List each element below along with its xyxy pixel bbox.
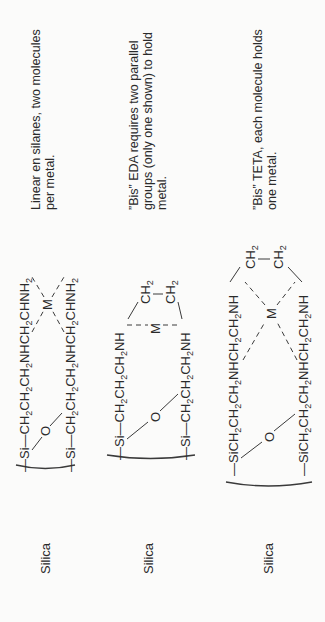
coordination-bond [32,277,44,297]
metal-atom: M [148,323,163,334]
bond-line [128,302,138,319]
row-bis-eda: Silica —Si—CH2CH2CH2NH —Si—CH2CH2CH2NH O… [107,32,195,574]
caption-line: metal. [155,176,169,210]
silica-label: Silica [261,542,276,574]
row-bis-teta: Silica —SiCH2CH2CH2NHCH2CH2NH —SiCH2CH2C… [226,29,313,574]
silane-chain-bottom: —Si—CH2CH2CH2NH [178,332,195,460]
silane-chain-top: —SiCH2CH2CH2NHCH2CH2NH [226,295,243,476]
coordination-bond [277,322,297,360]
metal-atom: M [40,299,55,310]
silane-chain-bottom: —Si—CH2CH2CH2NHCH2CHNH2 [63,278,80,472]
methylene-group: CH2 [271,245,288,269]
caption-line: per metal. [43,154,57,210]
silane-chain-top: —Si—CH2CH2CH2NH [112,332,129,460]
metal-atom: M [264,308,279,319]
methylene-group: CH2 [163,280,180,304]
coordination-bond [277,282,295,305]
bond-line [178,302,182,319]
oxygen-atom: O [262,432,277,442]
oxygen-atom: O [38,426,53,436]
bond-line [241,442,262,458]
silica-surface-arc [226,482,312,486]
silane-chain-bottom: —SiCH2CH2CH2NHCH2CH2NH [296,295,313,476]
caption-line: ”Bis” TETA, each molecule holds [251,29,265,210]
silica-label: Silica [141,542,156,574]
methylene-group: CH2 [138,280,155,304]
oxygen-atom: O [148,412,163,422]
bond-line [230,267,240,282]
bond-line [288,267,302,282]
methylene-group: CH2 [243,245,260,269]
coordination-bond [243,322,265,360]
bond-line [50,413,62,426]
coordination-bond [245,282,265,305]
row-linear-en: Silica —Si—CH2CH2CH2NHCH2CHNH2 —Si—CH2CH… [16,29,80,574]
caption-line: ”Bis” EDA requires two parallel [127,40,141,210]
silane-chain-top: —Si—CH2CH2CH2NHCH2CHNH2 [17,278,34,472]
diagram-canvas: Silica —Si—CH2CH2CH2NHCH2CHNH2 —Si—CH2CH… [0,0,325,622]
caption-line: one metal. [265,152,279,210]
bond-line [160,394,178,411]
silica-label: Silica [38,542,53,574]
bond-line [274,414,295,431]
caption-line: Linear en silanes, two molecules [29,29,43,210]
bond-line [127,422,148,439]
chelation-diagram: Silica —Si—CH2CH2CH2NHCH2CHNH2 —Si—CH2CH… [0,0,325,622]
bond-line [32,437,42,450]
caption-line: groups (only one shown) to hold [141,32,155,210]
